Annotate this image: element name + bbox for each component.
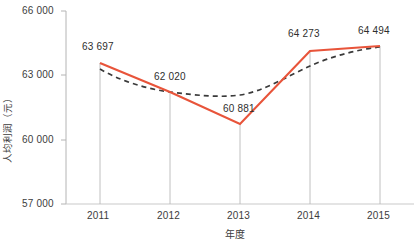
data-label-2013: 60 881 xyxy=(223,103,255,114)
x-tick-label-2011: 2011 xyxy=(87,210,109,221)
x-tick-label-2014: 2014 xyxy=(297,210,320,221)
x-tick-label-2015: 2015 xyxy=(367,210,390,221)
x-tick-label-2012: 2012 xyxy=(157,210,180,221)
y-tick-label-57000: 57 000 xyxy=(22,198,54,209)
data-label-2015: 64 494 xyxy=(358,25,390,36)
y-tick-label-63000: 63 000 xyxy=(22,69,54,80)
y-tick-label-60000: 60 000 xyxy=(22,134,54,145)
x-axis-title: 年度 xyxy=(225,226,245,241)
data-label-2014: 64 273 xyxy=(288,28,320,39)
y-tick-label-66000: 66 000 xyxy=(22,5,54,16)
chart-container: 人均利润（元） 66 000 63 000 60 000 57 000 2011… xyxy=(0,0,420,245)
data-label-2012: 62 020 xyxy=(154,71,186,82)
chart-plot-area: 人均利润（元） xyxy=(0,0,420,245)
data-label-2011: 63 697 xyxy=(82,41,114,52)
trend-line-dashed xyxy=(100,47,380,96)
y-axis-title: 人均利润（元） xyxy=(2,93,13,163)
x-tick-label-2013: 2013 xyxy=(227,210,250,221)
